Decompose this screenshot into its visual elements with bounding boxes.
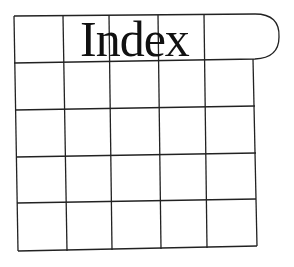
index-title: Index: [80, 14, 189, 64]
